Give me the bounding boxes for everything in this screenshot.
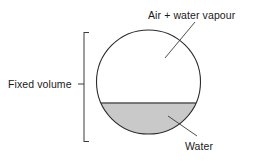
fixed-volume-bracket xyxy=(78,32,89,142)
label-fixed-volume: Fixed volume xyxy=(8,78,72,90)
label-air-water-vapour: Air + water vapour xyxy=(148,9,235,21)
diagram-canvas: Air + water vapour Fixed volume Water xyxy=(0,0,260,163)
leader-line-air xyxy=(165,22,195,58)
label-water: Water xyxy=(185,140,213,152)
